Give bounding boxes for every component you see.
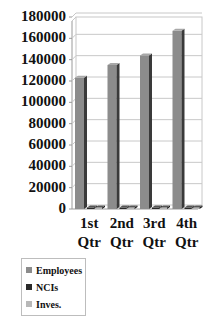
legend-label: NCIs — [36, 282, 58, 293]
bar-inves-2 — [128, 208, 135, 210]
bar-ncis-2 — [120, 208, 127, 210]
legend-label: Inves. — [36, 299, 61, 310]
bar-employees-2 — [108, 65, 117, 209]
bar-employees-3 — [140, 55, 149, 209]
bar-inves-1 — [95, 208, 102, 210]
bar-ncis-1 — [87, 208, 94, 210]
legend-swatch-inves — [26, 301, 32, 307]
legend-item-inves: Inves. — [26, 297, 61, 311]
x-tick-label: 1stQtr — [72, 214, 106, 252]
y-tick-label: 40000 — [0, 158, 66, 173]
legend-swatch-ncis — [26, 284, 32, 290]
bar-inves-4 — [193, 208, 200, 210]
y-tick-label: 80000 — [0, 116, 66, 131]
bar-ncis-3 — [152, 208, 159, 210]
x-tick-label: 2ndQtr — [105, 214, 139, 252]
y-tick-label: 180000 — [0, 9, 66, 24]
x-tick-label: 3rdQtr — [137, 214, 171, 252]
legend-item-employees: Employees — [26, 263, 82, 277]
bar-employees-4 — [173, 31, 182, 209]
y-tick-label: 60000 — [0, 137, 66, 152]
y-tick-label: 20000 — [0, 180, 66, 195]
bar-ncis-4 — [185, 208, 192, 210]
legend: Employees NCIs Inves. — [21, 258, 86, 316]
y-tick-label: 0 — [0, 201, 66, 216]
y-tick-label: 160000 — [0, 30, 66, 45]
chart: 0200004000060000800001000001200001400001… — [0, 0, 215, 334]
bar-inves-3 — [160, 208, 167, 210]
y-tick-label: 100000 — [0, 94, 66, 109]
legend-item-ncis: NCIs — [26, 280, 58, 294]
x-tick-label: 4thQtr — [170, 214, 204, 252]
y-tick-label: 140000 — [0, 52, 66, 67]
legend-label: Employees — [36, 265, 82, 276]
y-tick-label: 120000 — [0, 73, 66, 88]
bar-employees-1 — [75, 78, 84, 209]
legend-swatch-employees — [26, 267, 32, 273]
